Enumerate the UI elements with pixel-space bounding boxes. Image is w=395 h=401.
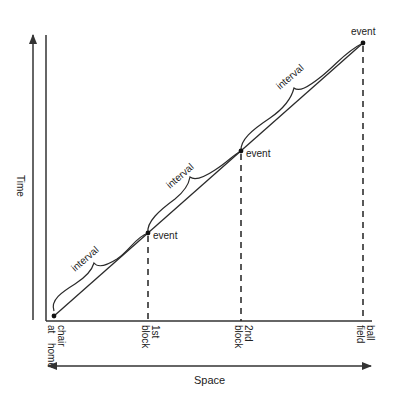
event-dot-3 bbox=[361, 41, 366, 46]
event-dot-2 bbox=[239, 149, 244, 154]
svg-text:field: field bbox=[355, 325, 366, 343]
svg-text:at: at bbox=[46, 325, 57, 334]
time-axis-label: Time bbox=[15, 175, 26, 197]
location-label-2nd-block: 2nd block bbox=[233, 325, 254, 349]
event-label-2: event bbox=[246, 148, 271, 159]
location-label-1st-block: 1st block bbox=[140, 325, 161, 349]
interval-label-2: interval bbox=[164, 161, 196, 190]
interval-label-1: interval bbox=[69, 244, 101, 273]
interval-label-3: interval bbox=[274, 62, 306, 91]
location-label-ball-field: ball field bbox=[355, 325, 376, 343]
world-line bbox=[54, 43, 363, 316]
space-axis-label: Space bbox=[194, 374, 225, 386]
event-label-1: event bbox=[153, 230, 178, 241]
svg-text:block: block bbox=[233, 325, 244, 349]
location-label-chair-at-home: chair at home bbox=[46, 325, 67, 368]
origin-dot bbox=[52, 314, 57, 319]
svg-text:home: home bbox=[46, 343, 57, 368]
space-time-diagram: Time event event event interval interval… bbox=[0, 0, 395, 401]
event-dot-1 bbox=[146, 231, 151, 236]
svg-text:block: block bbox=[140, 325, 151, 349]
event-label-3: event bbox=[351, 26, 376, 37]
